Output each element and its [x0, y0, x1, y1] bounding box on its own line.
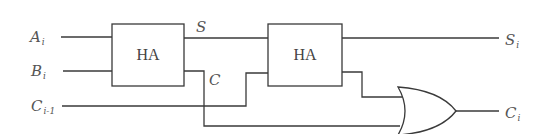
half-adder-1: HA [112, 24, 184, 86]
half-adder-2: HA [268, 24, 342, 86]
label-b-input: Bi [30, 62, 46, 81]
label-a-input: Ai [28, 28, 45, 47]
or-gate [398, 87, 456, 134]
label-intermediate-carry: C [209, 71, 221, 89]
half-adder-2-label: HA [293, 46, 317, 63]
label-carry-output: Ci [505, 104, 520, 123]
full-adder-diagram: HA HA Ai Bi Ci-1 S C Si Ci [0, 0, 546, 134]
label-intermediate-sum: S [196, 18, 206, 36]
label-carry-in: Ci-1 [31, 97, 55, 116]
wire-ha2-carry [342, 72, 402, 97]
half-adder-1-label: HA [136, 46, 160, 63]
label-sum-output: Si [505, 31, 519, 50]
